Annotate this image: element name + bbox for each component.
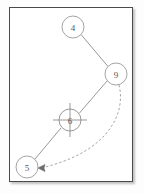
edge-6-5 <box>35 128 61 159</box>
edge-layer <box>35 35 121 172</box>
graph-canvas: 4 9 6 5 <box>0 0 144 193</box>
arrowhead-into-node-5 <box>38 165 45 172</box>
node-5[interactable]: 5 <box>16 156 38 178</box>
edge-4-9 <box>81 35 108 67</box>
figure-root: 4 9 6 5 <box>0 0 144 193</box>
node-4-label: 4 <box>71 23 76 33</box>
node-4[interactable]: 4 <box>62 16 84 38</box>
node-6[interactable]: 6 <box>59 109 81 131</box>
edge-9-6 <box>80 81 108 113</box>
node-6-label: 6 <box>68 116 73 126</box>
node-9[interactable]: 9 <box>105 63 127 85</box>
edge-9-5-dashed <box>41 85 121 168</box>
node-layer: 4 9 6 5 <box>16 16 127 178</box>
node-9-label: 9 <box>114 70 119 80</box>
node-5-label: 5 <box>25 163 30 173</box>
